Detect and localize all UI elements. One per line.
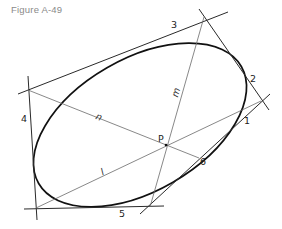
ellipse-tangent-diagram: P 1 2 3 4 5 6 n m l xyxy=(0,0,282,229)
label-tangent-5: 5 xyxy=(119,208,125,219)
label-chord-m: m xyxy=(169,86,182,98)
tangent-line-3 xyxy=(18,12,228,94)
tangent-line-2 xyxy=(199,9,269,110)
label-tangent-6: 6 xyxy=(200,156,206,167)
label-tangent-4: 4 xyxy=(21,113,27,124)
label-p: P xyxy=(158,133,164,144)
chord-m xyxy=(150,17,204,207)
label-tangent-1: 1 xyxy=(244,115,250,126)
point-p xyxy=(165,144,168,147)
label-tangent-3: 3 xyxy=(171,19,177,30)
label-chord-l: l xyxy=(99,166,106,177)
tangent-line-1 xyxy=(140,94,270,214)
chord-l xyxy=(36,101,261,208)
ellipse xyxy=(6,9,275,229)
label-tangent-2: 2 xyxy=(250,73,256,84)
label-chord-n: n xyxy=(94,110,104,122)
